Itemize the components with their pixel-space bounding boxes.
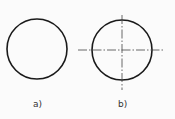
label-b: b) bbox=[118, 99, 127, 109]
label-a: a) bbox=[33, 99, 42, 109]
drawing bbox=[0, 0, 175, 119]
diagram-canvas: a) b) bbox=[0, 0, 175, 119]
circle-a bbox=[7, 19, 67, 79]
